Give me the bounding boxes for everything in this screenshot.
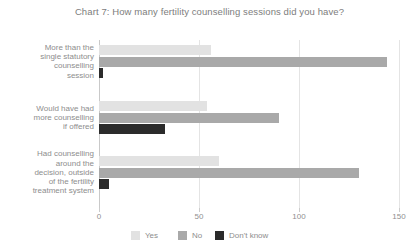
chart-title: Chart 7: How many fertility counselling … [0, 6, 419, 17]
category-label: Would have hadmore counsellingif offered [2, 104, 94, 132]
bar-no [99, 57, 387, 67]
category-label-line: counselling [2, 61, 94, 70]
legend-label: Yes [145, 231, 158, 240]
legend-label: Don't know [229, 231, 268, 240]
chart-container: Chart 7: How many fertility counselling … [0, 0, 419, 245]
bar-don-t-know [99, 68, 103, 78]
legend-swatch-icon [215, 231, 224, 240]
category-label-line: session [2, 71, 94, 80]
x-axis-tick-label: 150 [379, 212, 419, 221]
legend-swatch-icon [131, 231, 140, 240]
bar-no [99, 113, 279, 123]
bar-yes [99, 156, 219, 166]
bar-yes [99, 101, 207, 111]
category-label-line: More than the [2, 43, 94, 52]
category-label: More than thesingle statutorycounselling… [2, 43, 94, 80]
bar-no [99, 168, 359, 178]
category-label-line: single statutory [2, 52, 94, 61]
category-label-line: decision, outside [2, 168, 94, 177]
x-axis-tick-label: 50 [179, 212, 219, 221]
category-label-line: Had counselling [2, 149, 94, 158]
bar-don-t-know [99, 179, 109, 189]
category-label-line: of the fertility [2, 177, 94, 186]
x-axis-tick-label: 0 [79, 212, 119, 221]
category-label-line: if offered [2, 122, 94, 131]
legend-item-yes[interactable]: Yes [131, 229, 158, 241]
legend-item-don-t-know[interactable]: Don't know [215, 229, 268, 241]
bar-yes [99, 45, 211, 55]
category-label-line: treatment system [2, 186, 94, 195]
legend-label: No [192, 231, 202, 240]
legend-item-no[interactable]: No [178, 229, 202, 241]
chart-legend: YesNoDon't know [0, 229, 419, 241]
category-label-line: around the [2, 159, 94, 168]
gridline [399, 40, 400, 208]
x-axis-tick-label: 100 [279, 212, 319, 221]
bar-don-t-know [99, 124, 165, 134]
category-label-line: more counselling [2, 113, 94, 122]
legend-swatch-icon [178, 231, 187, 240]
category-label-line: Would have had [2, 104, 94, 113]
category-label: Had counsellingaround thedecision, outsi… [2, 149, 94, 195]
